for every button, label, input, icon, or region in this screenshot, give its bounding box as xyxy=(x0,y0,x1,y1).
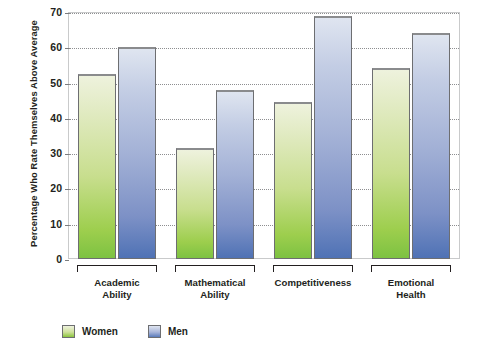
bar-chart: Percentage Who Rate Themselves Above Ave… xyxy=(0,0,478,359)
bar-women-2 xyxy=(274,102,312,259)
y-tick-label: 50 xyxy=(36,77,62,89)
legend-item-men[interactable]: Men xyxy=(148,325,188,338)
legend-label: Men xyxy=(168,326,188,337)
category-bracket xyxy=(371,265,451,272)
bar-men-3 xyxy=(412,33,450,259)
category-label: EmotionalHealth xyxy=(350,277,472,301)
category-label-line: Health xyxy=(350,289,472,301)
bar-men-1 xyxy=(216,90,254,259)
y-tick-label: 0 xyxy=(36,253,62,265)
y-tick-label: 70 xyxy=(36,6,62,18)
bar-men-2 xyxy=(314,16,352,259)
category-axis: AcademicAbilityMathematicalAbilityCompet… xyxy=(68,259,460,359)
category-label-line: Emotional xyxy=(350,277,472,289)
bar-women-1 xyxy=(176,148,214,259)
bars-layer xyxy=(68,12,460,259)
bar-men-0 xyxy=(118,47,156,259)
category-label-line: Ability xyxy=(154,289,276,301)
category-bracket xyxy=(175,265,255,272)
category-bracket xyxy=(77,265,157,272)
legend-label: Women xyxy=(82,326,118,337)
y-tick-label: 10 xyxy=(36,218,62,230)
legend-swatch-women-icon xyxy=(62,325,75,338)
category-bracket xyxy=(273,265,353,272)
y-tick-label: 40 xyxy=(36,112,62,124)
legend-item-women[interactable]: Women xyxy=(62,325,118,338)
y-tick-label: 20 xyxy=(36,182,62,194)
y-axis-tick-labels: 010203040506070 xyxy=(36,0,62,359)
legend-swatch-men-icon xyxy=(148,325,161,338)
bar-women-0 xyxy=(78,74,116,259)
y-tick-label: 60 xyxy=(36,41,62,53)
bar-women-3 xyxy=(372,68,410,259)
legend: WomenMen xyxy=(62,325,208,338)
y-tick-label: 30 xyxy=(36,147,62,159)
